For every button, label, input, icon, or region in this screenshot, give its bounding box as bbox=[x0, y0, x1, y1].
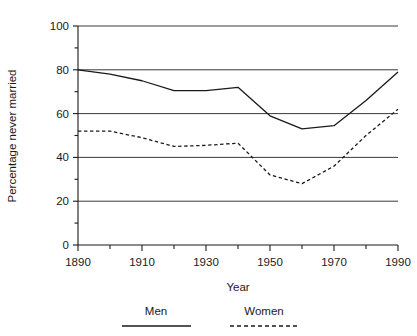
series-line-women bbox=[78, 109, 398, 183]
series-line-men bbox=[78, 70, 398, 129]
x-tick-label: 1990 bbox=[385, 256, 411, 268]
y-tick-label: 40 bbox=[56, 151, 69, 163]
x-tick-label: 1950 bbox=[257, 256, 283, 268]
y-tick-label: 60 bbox=[56, 108, 69, 120]
y-tick-label: 100 bbox=[50, 20, 69, 32]
y-axis-title: Percentage never married bbox=[6, 70, 18, 203]
legend-label-men: Men bbox=[145, 305, 167, 317]
y-axis-ticks: 020406080100 bbox=[50, 20, 78, 251]
y-tick-label: 80 bbox=[56, 64, 69, 76]
y-tick-label: 0 bbox=[63, 239, 69, 251]
legend-label-women: Women bbox=[244, 305, 283, 317]
chart-figure: 020406080100 189019101930195019701990 Pe… bbox=[0, 0, 417, 336]
x-axis-title: Year bbox=[226, 281, 249, 293]
x-tick-label: 1890 bbox=[65, 256, 91, 268]
y-tick-label: 20 bbox=[56, 195, 69, 207]
line-chart: 020406080100 189019101930195019701990 Pe… bbox=[0, 0, 417, 336]
chart-legend: Men Women bbox=[122, 305, 299, 326]
x-tick-label: 1910 bbox=[129, 256, 155, 268]
x-tick-label: 1970 bbox=[321, 256, 347, 268]
x-axis-ticks: 189019101930195019701990 bbox=[65, 245, 411, 268]
x-tick-label: 1930 bbox=[193, 256, 219, 268]
